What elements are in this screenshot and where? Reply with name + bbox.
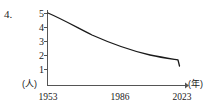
x-axis-arrowhead [185, 83, 189, 89]
chart-figure: 4. (人) (年) 5 4 3 2 1 1953 1986 2023 [0, 0, 211, 108]
chart-plot-area [0, 0, 211, 108]
y-axis-ticks [44, 14, 48, 70]
axes [48, 10, 190, 89]
data-series-line [48, 13, 180, 66]
